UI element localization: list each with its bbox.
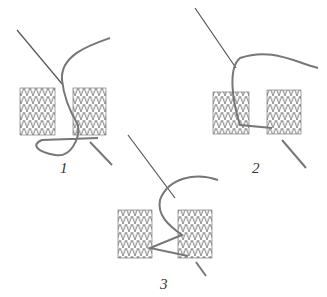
panel-label-2: 2 bbox=[252, 160, 260, 177]
knit-piece-right bbox=[267, 90, 301, 134]
knit-piece-left bbox=[20, 88, 55, 135]
grafting-illustration bbox=[0, 0, 327, 297]
panel-1 bbox=[17, 30, 112, 165]
panel-2 bbox=[195, 8, 318, 168]
knit-piece-left bbox=[213, 92, 249, 134]
needle bbox=[17, 30, 63, 85]
panel-label-3: 3 bbox=[160, 276, 168, 293]
knit-piece-left bbox=[118, 210, 152, 258]
knit-piece-right bbox=[178, 210, 212, 258]
panel-label-1: 1 bbox=[60, 160, 68, 177]
panel-3 bbox=[118, 135, 218, 276]
needle bbox=[195, 8, 236, 68]
